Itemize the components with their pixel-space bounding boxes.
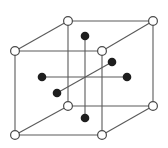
edge-bottom-right-depth xyxy=(102,106,153,135)
corner-atom-front-bottom-right xyxy=(98,131,107,140)
corner-atom-back-bottom-right xyxy=(149,102,158,111)
corner-atom-front-top-left xyxy=(11,47,20,56)
corner-atom-back-top-left xyxy=(64,17,73,26)
face-atom-left xyxy=(38,73,47,82)
face-atom-back xyxy=(108,58,117,67)
corner-atom-front-bottom-left xyxy=(11,131,20,140)
edge-top-right-depth xyxy=(102,21,153,51)
corner-atom-back-bottom-left xyxy=(64,102,73,111)
face-atom-right xyxy=(123,73,132,82)
edge-bottom-left-depth xyxy=(15,106,68,135)
face-atom-top xyxy=(81,32,90,41)
unit-cell-diagram xyxy=(0,0,168,148)
face-atom-bottom xyxy=(81,114,90,123)
edge-top-left-depth xyxy=(15,21,68,51)
corner-atom-back-top-right xyxy=(149,17,158,26)
face-atom-front xyxy=(53,89,62,98)
corner-atom-front-top-right xyxy=(98,47,107,56)
